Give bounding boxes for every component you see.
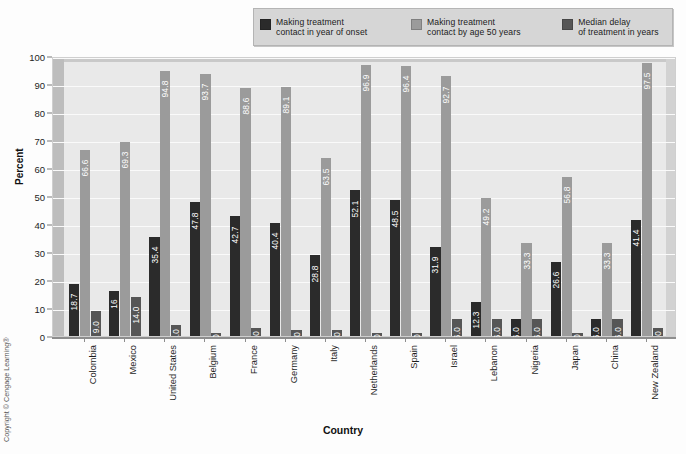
bar-2[interactable]: 4.0 xyxy=(171,325,181,336)
bar-value-label: 66.6 xyxy=(80,159,90,176)
chart-canvas: Making treatmentcontact in year of onset… xyxy=(0,0,686,454)
bar-1[interactable]: 89.1 xyxy=(281,87,291,336)
bar-1[interactable]: 56.8 xyxy=(562,177,572,336)
bar-0[interactable]: 47.8 xyxy=(190,202,200,336)
x-tick-mark xyxy=(405,337,406,342)
bar-2[interactable]: 14.0 xyxy=(131,297,141,336)
bar-value-label: 35.4 xyxy=(150,247,160,264)
y-tick-label: 0 xyxy=(40,332,45,343)
bar-value-label: 40.4 xyxy=(270,233,280,250)
legend-label: Making treatmentcontact by age 50 years xyxy=(427,17,521,38)
bar-1[interactable]: 49.2 xyxy=(481,198,491,336)
bar-group: 42.788.63.0 xyxy=(230,58,262,336)
x-axis-line xyxy=(52,337,676,339)
bar-value-label: 9.0 xyxy=(91,320,101,332)
bar-value-label: 63.5 xyxy=(321,168,331,185)
bar-value-label: 97.5 xyxy=(642,73,652,90)
x-tick-label: United States xyxy=(168,345,178,401)
bar-value-label: 33.3 xyxy=(602,253,612,270)
bar-2[interactable]: 1.0 xyxy=(211,333,221,336)
x-tick-label: Colombia xyxy=(88,345,98,384)
x-tick-mark xyxy=(124,337,125,342)
y-tick-label: 70 xyxy=(34,136,45,147)
bar-value-label: 12.3 xyxy=(471,311,481,328)
bar-0[interactable]: 16 xyxy=(109,291,119,336)
bar-1[interactable]: 66.6 xyxy=(80,150,90,336)
x-tick-mark xyxy=(204,337,205,342)
bar-0[interactable]: 28.8 xyxy=(310,255,320,336)
bar-1[interactable]: 97.5 xyxy=(642,63,652,336)
bar-group: 41.497.53.0 xyxy=(631,58,663,336)
legend-swatch-icon xyxy=(260,19,271,30)
bar-value-label: 28.8 xyxy=(310,265,320,282)
bar-0[interactable]: 26.6 xyxy=(551,262,561,336)
bar-2[interactable]: 2.0 xyxy=(291,330,301,336)
bar-value-label: 18.7 xyxy=(69,293,79,310)
bar-2[interactable]: 1.0 xyxy=(372,333,382,336)
bar-group: 35.494.84.0 xyxy=(149,58,181,336)
bar-2[interactable]: 6.0 xyxy=(612,319,622,336)
x-tick-mark xyxy=(325,337,326,342)
bar-group: 26.656.81.0 xyxy=(551,58,583,336)
bar-0[interactable]: 52.1 xyxy=(350,190,360,336)
bar-value-label: 31.9 xyxy=(430,257,440,274)
bar-2[interactable]: 6.0 xyxy=(452,319,462,336)
legend-item-0: Making treatmentcontact in year of onset xyxy=(260,17,411,38)
bar-1[interactable]: 69.3 xyxy=(120,142,130,336)
bar-1[interactable]: 63.5 xyxy=(321,158,331,336)
x-tick-label: China xyxy=(610,345,620,369)
x-tick-mark xyxy=(526,337,527,342)
x-tick-mark xyxy=(164,337,165,342)
x-tick-mark xyxy=(285,337,286,342)
bar-value-label: 47.8 xyxy=(190,212,200,229)
bar-1[interactable]: 33.3 xyxy=(521,243,531,336)
bar-1[interactable]: 94.8 xyxy=(160,71,170,336)
y-tick-label: 100 xyxy=(29,52,45,63)
bar-1[interactable]: 33.3 xyxy=(602,243,612,336)
bar-2[interactable]: 6.0 xyxy=(492,319,502,336)
bar-2[interactable]: 3.0 xyxy=(251,328,261,336)
bar-1[interactable]: 96.9 xyxy=(361,65,371,336)
x-tick-label: Germany xyxy=(289,345,299,383)
bar-value-label: 33.3 xyxy=(522,253,532,270)
bar-value-label: 4.0 xyxy=(171,329,181,341)
bar-0[interactable]: 42.7 xyxy=(230,216,240,336)
legend-label-line1: Median delay xyxy=(578,17,658,28)
bar-0[interactable]: 41.4 xyxy=(631,220,641,336)
bar-2[interactable]: 6.0 xyxy=(532,319,542,336)
bar-2[interactable]: 3.0 xyxy=(653,328,663,336)
bar-1[interactable]: 93.7 xyxy=(200,74,210,336)
bar-group: 6.033.36.0 xyxy=(591,58,623,336)
bar-1[interactable]: 96.4 xyxy=(401,66,411,336)
bar-0[interactable]: 48.5 xyxy=(390,200,400,336)
y-tick-label: 50 xyxy=(34,192,45,203)
bar-0[interactable]: 6.0 xyxy=(591,319,601,336)
legend-item-2: Median delayof treatment in years xyxy=(562,17,666,38)
bar-value-label: 16 xyxy=(109,300,119,310)
bar-2[interactable]: 2.0 xyxy=(332,330,342,336)
bar-2[interactable]: 1.0 xyxy=(572,333,582,336)
bar-0[interactable]: 31.9 xyxy=(430,247,440,336)
bar-value-label: 92.7 xyxy=(441,86,451,103)
bar-0[interactable]: 18.7 xyxy=(69,284,79,336)
x-tick-mark xyxy=(566,337,567,342)
bar-group: 28.863.52.0 xyxy=(310,58,342,336)
bar-1[interactable]: 88.6 xyxy=(240,88,250,336)
bar-value-label: 96.9 xyxy=(361,75,371,92)
legend-label-line2: contact by age 50 years xyxy=(427,27,521,38)
bar-0[interactable]: 35.4 xyxy=(149,237,159,336)
bar-0[interactable]: 6.0 xyxy=(511,319,521,336)
bar-group: 47.893.71.0 xyxy=(190,58,222,336)
legend-swatch-icon xyxy=(562,19,573,30)
bar-0[interactable]: 40.4 xyxy=(270,223,280,336)
bar-2[interactable]: 1.0 xyxy=(412,333,422,336)
bar-group: 40.489.12.0 xyxy=(270,58,302,336)
bar-value-label: 14.0 xyxy=(131,307,141,324)
x-tick-label: Spain xyxy=(409,345,419,369)
y-tick-label: 10 xyxy=(34,304,45,315)
bar-1[interactable]: 92.7 xyxy=(441,76,451,336)
legend-label-line2: contact in year of onset xyxy=(276,27,367,38)
legend-item-1: Making treatmentcontact by age 50 years xyxy=(411,17,562,38)
bar-2[interactable]: 9.0 xyxy=(91,311,101,336)
bar-0[interactable]: 12.3 xyxy=(471,302,481,336)
